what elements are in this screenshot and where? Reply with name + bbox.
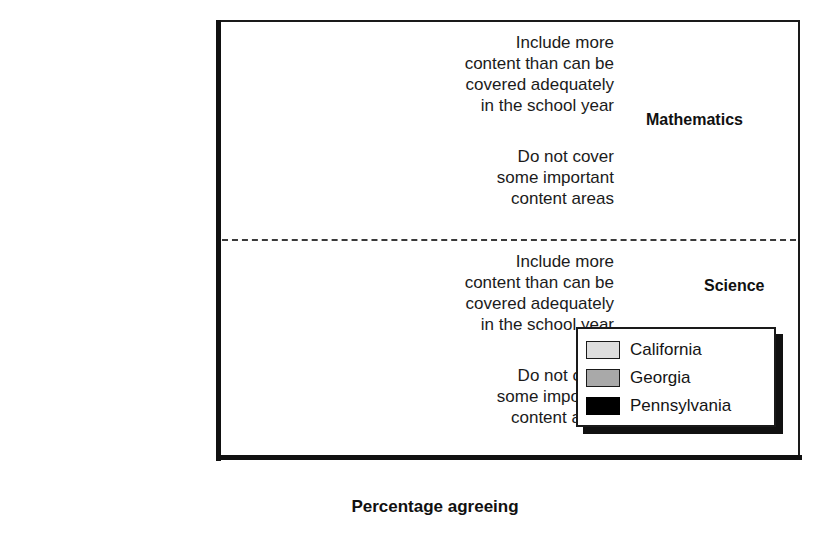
legend-label-pennsylvania: Pennsylvania — [630, 396, 731, 416]
legend-item-california[interactable]: California — [586, 336, 766, 364]
legend-swatch-california — [586, 341, 620, 359]
bars-layer — [0, 0, 820, 545]
legend-label-georgia: Georgia — [630, 368, 690, 388]
section-divider — [222, 239, 796, 241]
category-label-math-do-not-cover: Do not cover some important content area… — [497, 146, 614, 209]
legend-swatch-georgia — [586, 369, 620, 387]
legend: California Georgia Pennsylvania — [576, 327, 776, 427]
section-label-science: Science — [704, 277, 764, 295]
section-label-mathematics: Mathematics — [646, 111, 743, 129]
category-label-math-include-more: Include more content than can be covered… — [465, 32, 614, 116]
category-label-science-include-more: Include more content than can be covered… — [465, 251, 614, 335]
legend-item-georgia[interactable]: Georgia — [586, 364, 766, 392]
x-axis-title: Percentage agreeing — [0, 497, 820, 517]
legend-label-california: California — [630, 340, 702, 360]
legend-item-pennsylvania[interactable]: Pennsylvania — [586, 392, 766, 420]
legend-swatch-pennsylvania — [586, 397, 620, 415]
chart-root: Include more content than can be covered… — [0, 0, 820, 545]
